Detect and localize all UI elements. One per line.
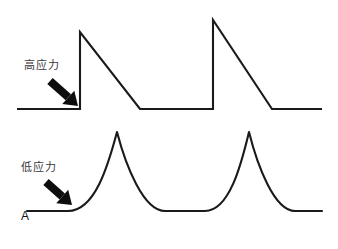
low-stress-label: 低应力 xyxy=(21,161,57,174)
panel-label-a: A xyxy=(21,209,29,223)
waveform-canvas xyxy=(0,0,338,249)
high-stress-label: 高应力 xyxy=(24,59,60,72)
stress-waveform-figure: 高应力 低应力 A xyxy=(0,0,338,249)
